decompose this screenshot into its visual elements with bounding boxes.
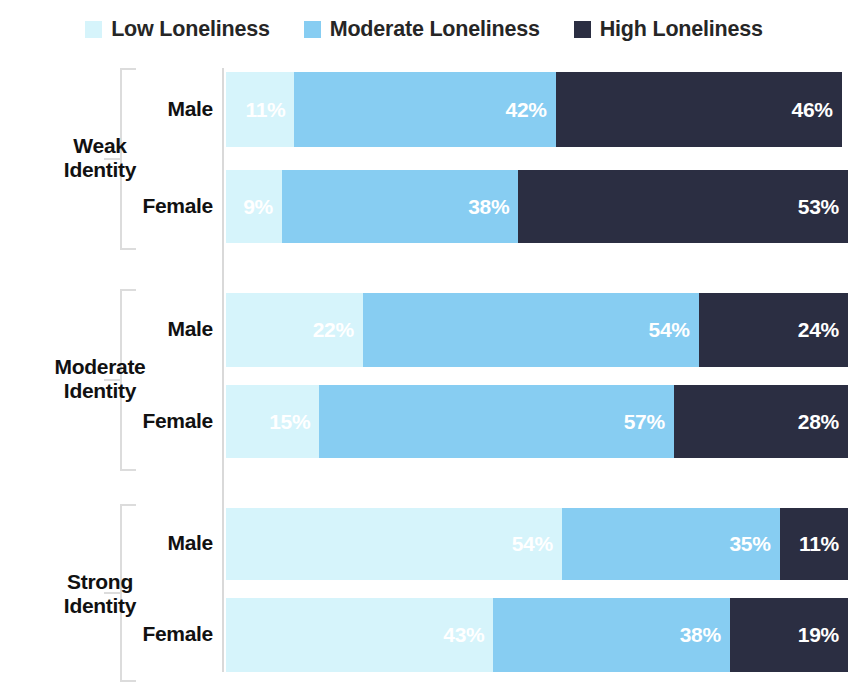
bar-segment-value: 38% [468,195,518,219]
legend-item-moderate[interactable]: Moderate Loneliness [304,17,540,42]
bar-segment-low[interactable]: 22% [226,293,363,367]
series-label: Male [139,97,213,121]
stacked-bar[interactable]: 54%35%11% [226,508,848,580]
bar-segment-value: 28% [798,410,848,434]
stacked-bar[interactable]: 11%42%46% [226,72,848,147]
bar-segment-value: 11% [799,532,848,556]
group-label: WeakIdentity [0,134,200,181]
stacked-bar[interactable]: 43%38%19% [226,598,848,672]
chart-legend: Low LonelinessModerate LonelinessHigh Lo… [0,0,848,58]
bar-segment-value: 9% [243,195,282,219]
bar-segment-moderate[interactable]: 54% [363,293,699,367]
series-label: Female [139,194,213,218]
bar-segment-moderate[interactable]: 38% [493,598,729,672]
legend-swatch-moderate-icon [304,21,321,38]
bar-segment-high[interactable]: 53% [518,170,848,243]
bar-segment-value: 38% [680,623,730,647]
stacked-bar[interactable]: 9%38%53% [226,170,848,243]
series-label: Female [139,622,213,646]
bar-segment-high[interactable]: 24% [699,293,848,367]
group-label: ModerateIdentity [0,355,200,402]
bar-segment-value: 42% [506,98,556,122]
stacked-bar[interactable]: 15%57%28% [226,385,848,458]
group-label-line1: Moderate [0,355,200,379]
bar-segment-high[interactable]: 28% [674,385,848,458]
bar-segment-high[interactable]: 46% [556,72,842,147]
series-label: Female [139,409,213,433]
plot-area: WeakIdentityMale11%42%46%Female9%38%53%M… [0,58,848,672]
legend-label-low: Low Loneliness [111,17,269,42]
group-label-line1: Weak [0,134,200,158]
bar-segment-value: 43% [443,623,493,647]
bar-segment-low[interactable]: 11% [226,72,294,147]
legend-swatch-low-icon [85,21,102,38]
legend-item-high[interactable]: High Loneliness [574,17,763,42]
bar-segment-value: 22% [313,318,363,342]
bar-segment-value: 57% [624,410,674,434]
y-axis-line [222,68,224,672]
bar-segment-value: 54% [512,532,562,556]
bar-segment-high[interactable]: 19% [730,598,848,672]
bar-segment-value: 15% [269,410,319,434]
group-label-line2: Identity [0,158,200,182]
bar-segment-value: 53% [798,195,848,219]
bar-segment-value: 11% [245,98,294,122]
bar-segment-low[interactable]: 54% [226,508,562,580]
bar-segment-low[interactable]: 43% [226,598,493,672]
bar-segment-value: 54% [649,318,699,342]
legend-label-moderate: Moderate Loneliness [330,17,540,42]
group-label: StrongIdentity [0,570,200,617]
bar-segment-moderate[interactable]: 57% [319,385,674,458]
bar-segment-moderate[interactable]: 35% [562,508,780,580]
bar-segment-moderate[interactable]: 38% [282,170,518,243]
legend-item-low[interactable]: Low Loneliness [85,17,269,42]
bar-segment-moderate[interactable]: 42% [294,72,555,147]
series-label: Male [139,317,213,341]
group-label-line2: Identity [0,594,200,618]
legend-swatch-high-icon [574,21,591,38]
bar-segment-low[interactable]: 9% [226,170,282,243]
stacked-bar[interactable]: 22%54%24% [226,293,848,367]
group-label-line2: Identity [0,379,200,403]
bar-segment-value: 24% [798,318,848,342]
bar-segment-value: 35% [729,532,779,556]
legend-label-high: High Loneliness [600,17,763,42]
bar-segment-value: 46% [792,98,842,122]
bar-segment-value: 19% [798,623,848,647]
series-label: Male [139,531,213,555]
bar-segment-low[interactable]: 15% [226,385,319,458]
group-label-line1: Strong [0,570,200,594]
bar-segment-high[interactable]: 11% [780,508,848,580]
